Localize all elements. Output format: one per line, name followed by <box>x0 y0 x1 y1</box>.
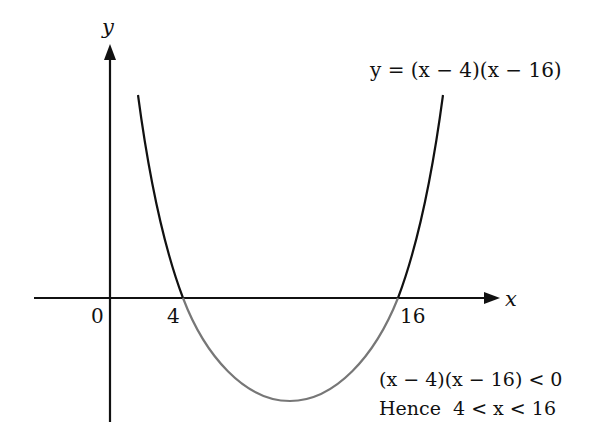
y-axis-label: y <box>101 15 115 39</box>
x-axis-arrow-icon <box>484 292 500 304</box>
origin-label: 0 <box>91 304 104 328</box>
x-axis-label: x <box>505 287 517 311</box>
equation-label: y = (x − 4)(x − 16) <box>369 58 562 82</box>
conclusion-text: Hence 4 < x < 16 <box>379 397 556 419</box>
inequality-text: (x − 4)(x − 16) < 0 <box>379 368 562 390</box>
root-label-4: 4 <box>167 304 180 328</box>
curve-below-axis <box>183 298 398 401</box>
root-label-16: 16 <box>400 304 425 328</box>
curve-left-above-axis <box>138 95 183 298</box>
quadratic-graph: y x 0 4 16 y = (x − 4)(x − 16) (x − 4)(x… <box>0 0 593 448</box>
curve-right-above-axis <box>398 95 443 298</box>
y-axis-arrow-icon <box>104 44 116 60</box>
